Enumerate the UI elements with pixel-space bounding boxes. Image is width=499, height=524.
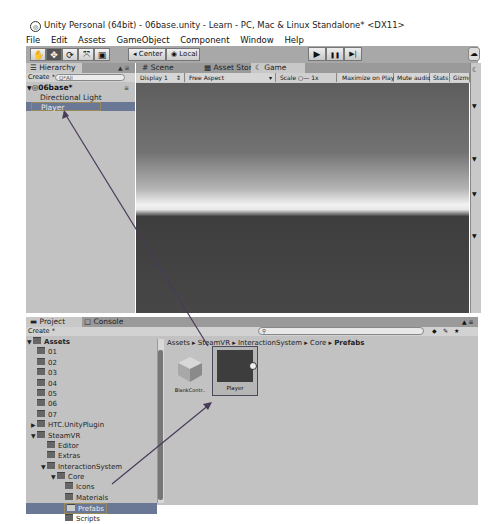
annotation-arrow-to-asset	[112, 404, 210, 484]
annotation-arrow-to-hierarchy	[64, 112, 208, 346]
